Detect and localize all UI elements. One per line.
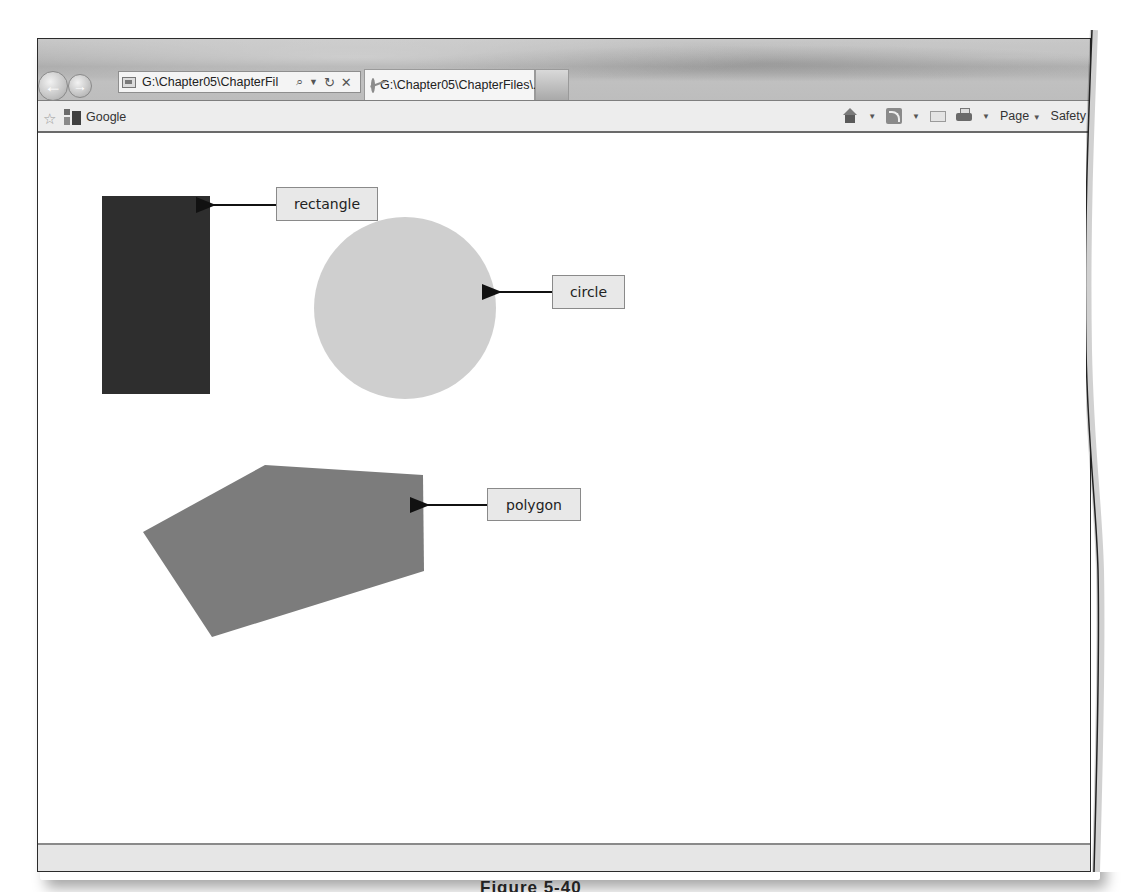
address-text[interactable]: G:\Chapter05\ChapterFil (142, 75, 290, 89)
arrow-left-icon: ← (44, 76, 62, 97)
back-button[interactable]: ← (38, 71, 68, 101)
torn-page-edge (1086, 30, 1126, 892)
ie-logo-icon (371, 78, 375, 93)
polygon-shape (143, 465, 424, 637)
new-tab-button[interactable] (535, 69, 569, 100)
close-icon[interactable]: ✕ (341, 75, 352, 90)
circle-shape (314, 217, 496, 399)
polygon-callout-label: polygon (487, 488, 581, 521)
figure-caption: Figure 5-40 (480, 878, 582, 892)
tab-title: G:\Chapter05\ChapterFiles\... (380, 78, 543, 92)
tab-active[interactable]: G:\Chapter05\ChapterFiles\... × (364, 69, 535, 100)
refresh-icon[interactable]: ↻ (324, 75, 335, 90)
address-bar[interactable]: G:\Chapter05\ChapterFil ⌕ ▼ ↻ ✕ (118, 71, 361, 93)
rectangle-shape (102, 196, 210, 394)
magnifier-icon[interactable]: ⌕ (296, 74, 303, 90)
page-favicon-icon (122, 77, 136, 88)
circle-callout-label: circle (552, 275, 625, 309)
rectangle-callout-label: rectangle (276, 187, 378, 221)
arrow-right-icon: → (73, 78, 87, 94)
forward-button[interactable]: → (68, 74, 92, 98)
chevron-down-icon[interactable]: ▼ (309, 77, 318, 87)
drawing-canvas (0, 0, 1126, 892)
